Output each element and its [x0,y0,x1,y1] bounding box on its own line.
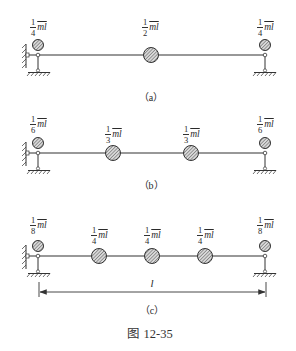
dimension-label: l [150,277,153,289]
mass-icon [106,146,121,161]
panel-a [22,40,276,77]
mass-label: 18 ml [257,216,274,235]
mass-label: 12 ml [142,18,159,37]
roller-support-right [253,254,276,277]
mass-label: 14 ml [197,226,214,245]
mass-icon [184,146,199,161]
mass-icon [260,241,271,252]
mass-icon [33,241,44,252]
mass-label: 18 ml [30,216,47,235]
mass-label: 16 ml [257,115,274,134]
mass-label: 13 ml [183,125,200,144]
mass-label: 14 ml [257,18,274,37]
mass-label: 13 ml [105,125,122,144]
mass-label: 14 ml [144,226,161,245]
panel-caption-b: （b） [139,177,164,192]
panel-c [22,241,276,298]
mass-icon [92,249,107,264]
mass-icon [260,138,271,149]
figure-caption: 图 12-35 [127,323,172,342]
mass-icon [144,48,159,63]
mass-icon [33,138,44,149]
mass-icon [260,40,271,51]
mass-label: 14 ml [30,18,47,37]
roller-support-right [253,53,276,76]
mass-icon [198,249,213,264]
mass-icon [145,249,160,264]
mass-label: 14 ml [91,226,108,245]
mass-label: 16 ml [30,115,47,134]
panel-caption-a: （a） [139,89,163,104]
panel-caption-c: （c） [140,302,164,317]
roller-support-right [253,151,276,174]
panel-b [22,138,276,175]
beam-diagrams [0,0,296,351]
mass-icon [33,40,44,51]
